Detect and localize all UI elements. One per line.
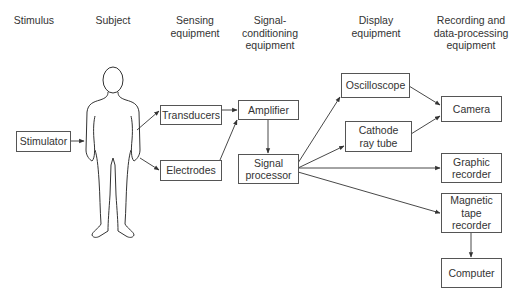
node-computer: Computer	[441, 258, 502, 288]
node-amplifier: Amplifier	[238, 100, 299, 120]
node-stimulator: Stimulator	[16, 131, 71, 152]
node-oscilloscope: Oscilloscope	[341, 73, 410, 98]
node-cathode-ray-tube: Cathode ray tube	[345, 121, 412, 152]
node-transducers: Transducers	[160, 105, 222, 125]
node-magnetic-tape-recorder: Magnetic tape recorder	[441, 193, 502, 233]
node-graphic-recorder: Graphic recorder	[441, 153, 502, 183]
node-camera: Camera	[441, 96, 502, 122]
node-electrodes: Electrodes	[160, 160, 222, 181]
diagram-connectors	[0, 0, 517, 301]
human-figure-icon	[86, 67, 140, 237]
node-signal-processor: Signal processor	[238, 154, 299, 184]
